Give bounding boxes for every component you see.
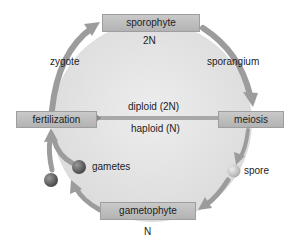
label-spore: spore (244, 165, 269, 176)
gamete-ball-icon (72, 160, 86, 174)
gametophyte-ploidy: N (144, 226, 151, 237)
label-sporangium: sporangium (207, 56, 259, 67)
gamete-ball-icon (44, 173, 58, 187)
node-meiosis: meiosis (218, 111, 284, 128)
sporophyte-ploidy: 2N (143, 35, 156, 46)
label-diploid: diploid (2N) (128, 101, 179, 112)
node-fertilization: fertilization (16, 111, 97, 128)
label-gametes: gametes (92, 161, 130, 172)
spore-ball-icon (228, 165, 241, 178)
ploidy-divider (96, 116, 220, 120)
label-haploid: haploid (N) (131, 123, 180, 134)
node-sporophyte: sporophyte (102, 14, 200, 32)
label-zygote: zygote (50, 56, 79, 67)
node-gametophyte: gametophyte (100, 202, 196, 220)
